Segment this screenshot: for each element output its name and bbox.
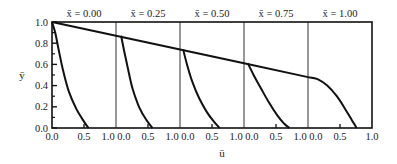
y-tick-label: 0.8 [35,38,48,49]
curves [52,22,357,128]
panel-dividers [116,22,308,128]
plot-frame [52,22,372,128]
x-axis: 0.00.51.0 0.00.51.0 0.00.51.0 0.00.51.0 … [45,124,378,142]
x-tick-label: 0.5 [333,131,346,142]
panel-title: x̄ = 0.25 [131,8,166,19]
x-tick-label: 1.0 0.0 [102,131,131,142]
profile-curve [183,50,220,128]
y-axis: 0.00.20.40.60.81.0 [35,17,57,134]
x-tick-label: 0.5 [269,131,282,142]
x-tick-label: 1.0 0.0 [294,131,323,142]
x-tick-label: 1.0 0.0 [230,131,259,142]
panel-title: x̄ = 1.00 [323,8,358,19]
profile-curve [52,22,89,128]
x-tick-label: 1.0 0.0 [166,131,195,142]
x-tick-label: 0.5 [77,131,90,142]
y-tick-label: 1.0 [35,17,48,28]
profile-curve [121,36,152,128]
panel-titles: x̄ = 0.00x̄ = 0.25x̄ = 0.50x̄ = 0.75x̄ =… [67,8,358,19]
x-tick-label: 0.5 [205,131,218,142]
profile-curve [248,63,290,128]
y-axis-label: ȳ [19,69,25,81]
y-tick-label: 0.2 [35,101,48,112]
x-axis-label: ū [219,147,225,159]
panel-title: x̄ = 0.00 [67,8,102,19]
panel-title: x̄ = 0.75 [259,8,294,19]
profile-curve [308,77,357,128]
y-tick-label: 0.6 [35,59,48,70]
x-tick-label: 0.0 [45,131,58,142]
y-tick-label: 0.4 [35,80,49,91]
x-tick-label: 0.5 [141,131,154,142]
chart: x̄ = 0.00x̄ = 0.25x̄ = 0.50x̄ = 0.75x̄ =… [0,0,397,164]
panel-title: x̄ = 0.50 [195,8,230,19]
x-tick-label: 1.0 [365,131,378,142]
